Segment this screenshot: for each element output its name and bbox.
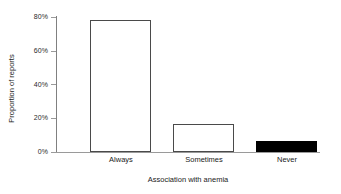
bar-series [56,17,320,152]
bar-chart-figure: Proportion of reports 80% 60% 40% 20% 0%… [0,0,341,194]
y-tick-label-80: 80% [2,13,48,21]
bar-sometimes [173,124,234,152]
bar-never [256,141,317,152]
bar-always [90,20,151,152]
x-tick-label-never: Never [246,155,328,165]
x-axis-line [56,152,320,153]
x-tick-label-always: Always [80,155,162,165]
y-axis-tick-labels: 80% 60% 40% 20% 0% [0,0,48,194]
y-tick-label-60: 60% [2,47,48,55]
y-tick-label-20: 20% [2,114,48,122]
x-axis-tick-labels: Always Sometimes Never [56,155,320,169]
x-axis-title: Association with anemia [56,175,320,184]
y-tick-label-0: 0% [2,148,48,156]
y-tick-label-40: 40% [2,81,48,89]
x-tick-label-sometimes: Sometimes [163,155,245,165]
